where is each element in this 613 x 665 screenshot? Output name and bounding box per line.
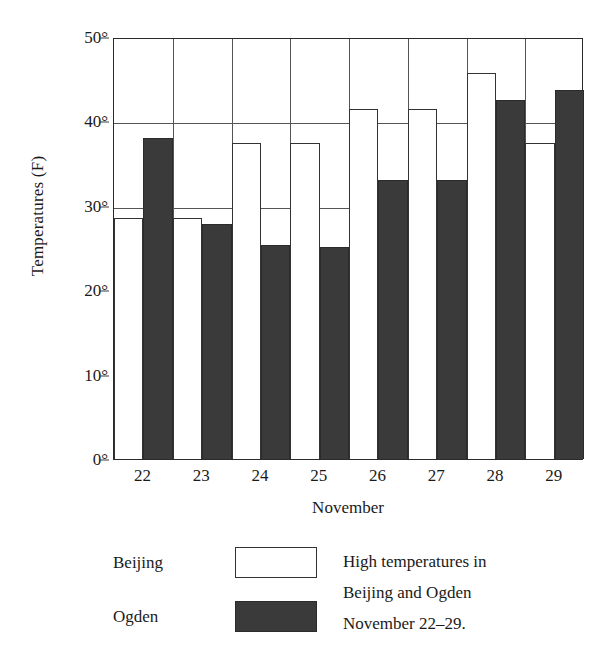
bar-group-27: [408, 39, 467, 459]
y-tick-mark-10: [100, 375, 109, 376]
y-tick-label-0: 0°: [46, 450, 108, 470]
bar-beijing-26: [349, 109, 378, 459]
bar-beijing-27: [408, 109, 437, 459]
chart-caption: High temperatures in Beijing and Ogden N…: [343, 546, 593, 639]
bar-ogden-27: [437, 180, 466, 459]
legend-entry-beijing: Beijing: [113, 545, 373, 585]
y-tick-label-50: 50°: [46, 28, 108, 48]
x-tick-label-26: 26: [369, 466, 386, 486]
x-tick-label-29: 29: [545, 466, 562, 486]
bar-group-28: [467, 39, 526, 459]
bar-ogden-28: [496, 100, 525, 459]
y-tick-label-40: 40°: [46, 112, 108, 132]
temperature-bar-chart: Temperatures (F) 0°10°20°30°40°50° 22232…: [0, 0, 613, 665]
bar-beijing-25: [290, 143, 319, 460]
legend-swatch-beijing: [235, 547, 317, 578]
legend-label-beijing: Beijing: [113, 553, 163, 573]
bar-ogden-22: [143, 138, 172, 459]
bar-beijing-24: [232, 143, 261, 460]
bar-group-29: [525, 39, 584, 459]
bar-ogden-24: [261, 245, 290, 459]
chart-legend: Beijing Ogden: [113, 545, 373, 641]
legend-entry-ogden: Ogden: [113, 599, 373, 639]
bar-ogden-25: [320, 247, 349, 459]
x-axis-tick-labels: 2223242526272829: [113, 466, 583, 492]
bar-beijing-28: [467, 73, 496, 459]
bar-group-22: [114, 39, 173, 459]
caption-line-1: High temperatures in: [343, 546, 593, 577]
legend-swatch-ogden: [235, 601, 317, 632]
y-tick-mark-50: [100, 38, 109, 39]
bar-group-23: [173, 39, 232, 459]
bar-beijing-22: [114, 218, 143, 459]
x-tick-label-25: 25: [310, 466, 327, 486]
y-axis-tick-labels: 0°10°20°30°40°50°: [38, 38, 108, 460]
bar-beijing-23: [173, 218, 202, 459]
bar-ogden-23: [202, 224, 231, 459]
x-tick-label-24: 24: [251, 466, 268, 486]
bar-group-26: [349, 39, 408, 459]
caption-line-2: Beijing and Ogden: [343, 577, 593, 608]
y-tick-mark-20: [100, 291, 109, 292]
bar-ogden-29: [555, 90, 584, 459]
x-axis-title: November: [113, 498, 583, 518]
bar-group-24: [232, 39, 291, 459]
y-tick-mark-0: [100, 460, 109, 461]
bar-group-25: [290, 39, 349, 459]
x-tick-label-23: 23: [193, 466, 210, 486]
legend-label-ogden: Ogden: [113, 607, 158, 627]
y-tick-label-20: 20°: [46, 281, 108, 301]
caption-line-3: November 22–29.: [343, 608, 593, 639]
x-tick-label-22: 22: [134, 466, 151, 486]
bar-beijing-29: [525, 143, 554, 460]
x-tick-label-27: 27: [428, 466, 445, 486]
bar-ogden-26: [378, 180, 407, 459]
y-tick-mark-30: [100, 206, 109, 207]
y-tick-label-10: 10°: [46, 366, 108, 386]
x-tick-label-28: 28: [486, 466, 503, 486]
y-tick-label-30: 30°: [46, 197, 108, 217]
y-tick-mark-40: [100, 122, 109, 123]
plot-area: [113, 38, 583, 460]
